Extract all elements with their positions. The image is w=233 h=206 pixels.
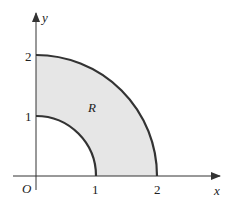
polar-region-diagram: y 2 1 R O 1 2 x <box>0 0 233 206</box>
x-tick-1: 1 <box>92 182 99 197</box>
y-axis-label: y <box>40 10 48 25</box>
y-tick-2: 2 <box>25 49 32 64</box>
x-axis-label: x <box>213 183 220 198</box>
origin-label: O <box>22 181 32 196</box>
y-tick-1: 1 <box>25 109 32 124</box>
region-r <box>36 55 157 176</box>
region-label: R <box>87 100 96 115</box>
x-tick-2: 2 <box>154 182 161 197</box>
